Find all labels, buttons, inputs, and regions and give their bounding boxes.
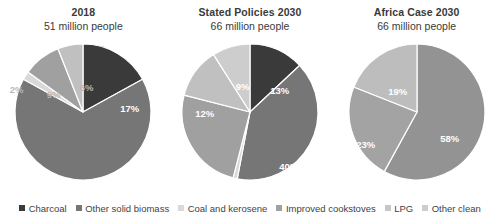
legend-item-lpg[interactable]: LPG	[385, 203, 414, 214]
legend-item-coal-and-kerosene[interactable]: Coal and kerosene	[178, 203, 267, 214]
slice-label-other-clean: 9%	[236, 81, 250, 92]
pie-svg: 13%40%1%25%12%9%	[167, 38, 334, 190]
pie-panel-1: 201851 million people17%66%2%9%6%	[0, 0, 167, 196]
slice-label-lpg: 6%	[80, 82, 94, 93]
slice-label-charcoal: 13%	[270, 85, 290, 96]
chart-legend: CharcoalOther solid biomassCoal and kero…	[0, 198, 500, 218]
pie-panel-2: Stated Policies 203066 million people13%…	[167, 0, 334, 196]
legend-swatch-icon	[276, 205, 282, 211]
pie-wrapper: 58%23%19%	[333, 38, 500, 190]
legend-label: Other solid biomass	[85, 203, 169, 214]
legend-label: LPG	[394, 203, 413, 214]
legend-label: Charcoal	[29, 203, 67, 214]
legend-swatch-icon	[19, 205, 25, 211]
pie-wrapper: 17%66%2%9%6%	[0, 38, 167, 190]
legend-swatch-icon	[178, 205, 184, 211]
legend-item-other-clean[interactable]: Other clean	[422, 203, 481, 214]
legend-label: Coal and kerosene	[188, 203, 268, 214]
pie-svg: 17%66%2%9%6%	[0, 38, 167, 190]
legend-item-improved-cookstoves[interactable]: Improved cookstoves	[276, 203, 375, 214]
legend-label: Other clean	[432, 203, 481, 214]
slice-label-lpg: 19%	[388, 86, 408, 97]
slice-label-lpg: 12%	[195, 108, 215, 119]
panel-subtitle: 66 million people	[167, 20, 334, 32]
legend-item-other-solid-biomass[interactable]: Other solid biomass	[76, 203, 169, 214]
slice-label-other-solid-biomass: 40%	[279, 161, 299, 172]
legend-item-charcoal[interactable]: Charcoal	[19, 203, 67, 214]
panel-subtitle: 51 million people	[0, 20, 167, 32]
legend-swatch-icon	[385, 205, 391, 211]
panel-title: Stated Policies 2030	[167, 6, 334, 18]
slice-label-charcoal: 17%	[120, 103, 140, 114]
legend-swatch-icon	[76, 205, 82, 211]
slice-label-improved-cookstoves: 9%	[47, 89, 61, 100]
panel-title: 2018	[0, 6, 167, 18]
legend-swatch-icon	[422, 205, 428, 211]
slice-label-improved-cookstoves: 23%	[356, 139, 376, 150]
slice-label-coal-and-kerosene: 2%	[10, 84, 24, 95]
slice-label-other-solid-biomass: 58%	[440, 133, 460, 144]
pie-panels-row: 201851 million people17%66%2%9%6%Stated …	[0, 0, 500, 196]
pie-wrapper: 13%40%1%25%12%9%	[167, 38, 334, 190]
panel-subtitle: 66 million people	[333, 20, 500, 32]
panel-title: Africa Case 2030	[333, 6, 500, 18]
pie-svg: 58%23%19%	[333, 38, 500, 190]
pie-chart-figure: 201851 million people17%66%2%9%6%Stated …	[0, 0, 500, 218]
legend-label: Improved cookstoves	[286, 203, 376, 214]
pie-panel-3: Africa Case 203066 million people58%23%1…	[333, 0, 500, 196]
slice-label-improved-cookstoves: 25%	[190, 162, 210, 173]
